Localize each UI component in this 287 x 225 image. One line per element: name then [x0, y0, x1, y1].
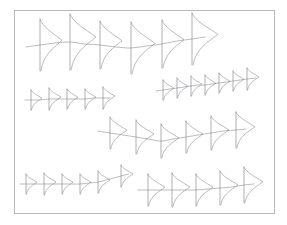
- density-glyph-curve: [136, 120, 154, 154]
- series-group-6: [138, 167, 263, 207]
- series-group-1: [26, 13, 218, 74]
- density-glyph-curve: [186, 121, 203, 153]
- trend-line: [26, 37, 205, 48]
- plot-canvas: [0, 0, 287, 225]
- figure-container: [0, 0, 287, 225]
- density-glyph-curve: [244, 167, 263, 203]
- density-glyph-curve: [98, 171, 110, 193]
- density-glyph-curve: [211, 116, 229, 150]
- density-glyph-curve: [70, 14, 96, 70]
- series-group-3: [25, 87, 115, 110]
- density-glyph-curve: [121, 165, 133, 187]
- density-glyph-curve: [40, 19, 62, 71]
- series-group-4: [98, 112, 255, 158]
- trend-line: [156, 78, 256, 91]
- series-group-2: [156, 68, 259, 100]
- density-glyph-curve: [110, 117, 127, 149]
- trend-line: [25, 98, 110, 100]
- series-group-5: [20, 165, 133, 195]
- density-glyph-curve: [100, 21, 122, 69]
- density-glyph-curve: [192, 13, 218, 65]
- density-glyph-curve: [162, 20, 184, 68]
